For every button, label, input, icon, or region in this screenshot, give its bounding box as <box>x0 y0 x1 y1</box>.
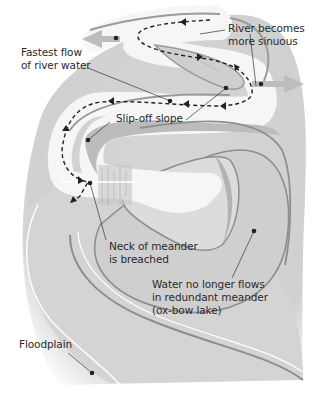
label-floodplain-line1: Floodplain <box>19 338 72 351</box>
label-fastest-flow-line2: of river water <box>21 59 91 72</box>
label-river-sinuous: River becomes more sinuous <box>228 22 305 48</box>
breach-zone <box>98 165 132 205</box>
label-floodplain: Floodplain <box>19 338 72 351</box>
label-neck-line2: is breached <box>109 253 198 266</box>
label-fastest-flow-line1: Fastest flow <box>21 46 91 59</box>
label-neck-breached: Neck of meander is breached <box>109 240 198 266</box>
label-river-sinuous-line2: more sinuous <box>228 35 305 48</box>
label-oxbow-lake: Water no longer flows in redundant meand… <box>152 278 268 317</box>
label-oxbow-line3: (ox-bow lake) <box>152 304 268 317</box>
label-river-sinuous-line1: River becomes <box>228 22 305 35</box>
label-oxbow-line1: Water no longer flows <box>152 278 268 291</box>
label-fastest-flow: Fastest flow of river water <box>21 46 91 72</box>
label-slip-off-slope: Slip-off slope <box>116 112 183 125</box>
label-neck-line1: Neck of meander <box>109 240 198 253</box>
label-slip-off-line1: Slip-off slope <box>116 112 183 125</box>
label-oxbow-line2: in redundant meander <box>152 291 268 304</box>
